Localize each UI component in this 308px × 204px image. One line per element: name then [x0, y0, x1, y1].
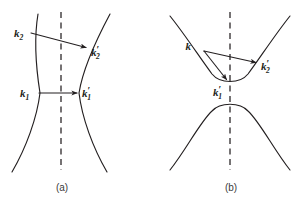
panel-a: k2 k′2 k1 k′1 (a) — [12, 12, 110, 193]
panel-a-label-k1-prime: k′1 — [82, 85, 91, 102]
physics-scattering-figure: k2 k′2 k1 k′1 (a) k k′2 k′1 (b) — [0, 0, 308, 204]
panel-b-caption: (b) — [225, 182, 237, 193]
panel-a-label-k1: k1 — [20, 87, 30, 102]
panel-b: k k′2 k′1 (b) — [170, 12, 290, 193]
panel-b-label-k2-prime: k′2 — [261, 58, 270, 75]
panel-b-label-k1-prime: k′1 — [213, 84, 222, 101]
panel-a-label-k2-prime: k′2 — [91, 44, 100, 61]
panel-a-vector-k2-to-k2prime — [31, 33, 86, 48]
panel-b-label-k: k — [186, 40, 192, 52]
panel-a-caption: (a) — [56, 182, 68, 193]
panel-a-label-k2: k2 — [14, 27, 24, 42]
